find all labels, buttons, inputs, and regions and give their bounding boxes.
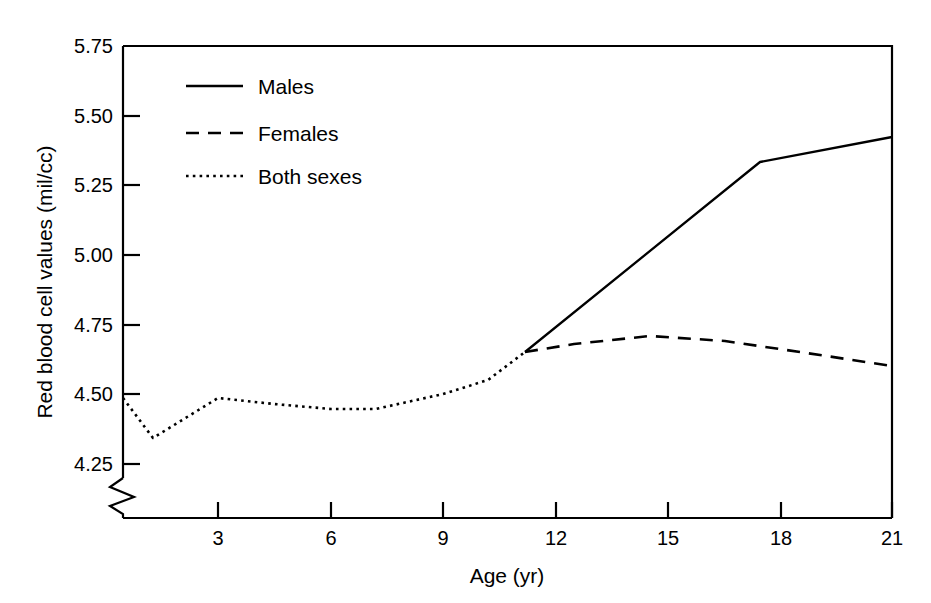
x-tick-label-18: 18 <box>770 527 792 549</box>
y-axis-title: Red blood cell values (mil/cc) <box>33 145 56 418</box>
chart-legend: Males Females Both sexes <box>186 75 362 188</box>
chart-figure: 5.75 5.50 5.25 5.00 4.75 4.50 4.25 3 6 9… <box>0 0 931 603</box>
legend-label-both-sexes: Both sexes <box>258 165 362 188</box>
y-tick-label-5.25: 5.25 <box>74 174 113 196</box>
y-tick-label-4.50: 4.50 <box>74 383 113 405</box>
y-tick-label-5.00: 5.00 <box>74 244 113 266</box>
legend-label-females: Females <box>258 122 339 145</box>
y-axis-tick-labels: 5.75 5.50 5.25 5.00 4.75 4.50 4.25 <box>74 35 113 475</box>
data-series-group <box>123 137 892 438</box>
y-tick-label-5.50: 5.50 <box>74 105 113 127</box>
series-females-line <box>525 336 892 366</box>
series-males-line <box>525 137 892 352</box>
x-tick-label-21: 21 <box>881 527 903 549</box>
x-axis-ticks <box>218 502 892 518</box>
y-tick-label-5.75: 5.75 <box>74 35 113 57</box>
y-axis-ticks <box>123 116 140 464</box>
x-tick-label-3: 3 <box>212 527 223 549</box>
y-tick-label-4.75: 4.75 <box>74 314 113 336</box>
y-axis-break-zigzag <box>110 478 134 518</box>
x-axis-tick-labels: 3 6 9 12 15 18 21 <box>212 527 903 549</box>
x-tick-label-9: 9 <box>437 527 448 549</box>
x-tick-label-15: 15 <box>657 527 679 549</box>
frame-top-right-path <box>123 46 892 518</box>
x-axis-title: Age (yr) <box>470 564 545 587</box>
x-tick-label-6: 6 <box>325 527 336 549</box>
chart-canvas: 5.75 5.50 5.25 5.00 4.75 4.50 4.25 3 6 9… <box>0 0 931 603</box>
series-both-sexes-line <box>123 352 525 438</box>
y-tick-label-4.25: 4.25 <box>74 453 113 475</box>
plot-frame <box>110 46 892 518</box>
legend-label-males: Males <box>258 75 314 98</box>
x-tick-label-12: 12 <box>545 527 567 549</box>
